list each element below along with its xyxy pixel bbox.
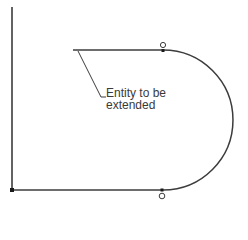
top-junction-square [162, 49, 165, 52]
arc [163, 50, 233, 190]
bottom-junction-circle [159, 193, 165, 199]
bottom-junction-square [161, 189, 164, 192]
annotation-label: Entity to be extended [106, 87, 166, 111]
corner-endpoint-marker [10, 188, 14, 192]
leader-line [78, 51, 106, 97]
annotation-line-2: extended [106, 99, 166, 111]
top-junction-circle [160, 42, 165, 47]
